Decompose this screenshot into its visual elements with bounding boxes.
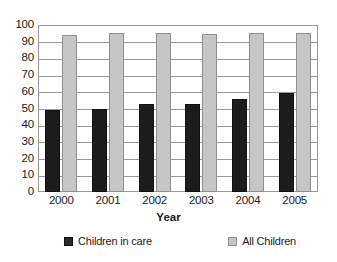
y-tick-label: 50: [0, 103, 34, 114]
gridline: [39, 76, 317, 77]
chart-legend: Children in careAll Children: [38, 232, 318, 250]
x-tick-label-2002: 2002: [131, 194, 178, 207]
x-axis: 200020012002200320042005: [38, 194, 318, 210]
y-tick-label: 90: [0, 36, 34, 47]
y-tick-label: 100: [0, 19, 34, 30]
bar-chart: 0102030405060708090100 20002001200220032…: [0, 0, 337, 262]
x-tick-label-2003: 2003: [178, 194, 225, 207]
y-tick-label: 0: [0, 186, 34, 197]
legend-label: Children in care: [78, 235, 152, 247]
y-tick-label: 60: [0, 86, 34, 97]
dark-square-icon: [64, 237, 73, 246]
legend-entry-all-children[interactable]: All Children: [228, 235, 296, 247]
gridline: [39, 59, 317, 60]
x-axis-title: Year: [0, 211, 337, 223]
gridline: [39, 126, 317, 127]
x-tick-label-2005: 2005: [271, 194, 318, 207]
y-axis: 0102030405060708090100: [0, 25, 34, 192]
y-tick-label: 10: [0, 169, 34, 180]
x-tick-label-2001: 2001: [85, 194, 132, 207]
y-tick-label: 20: [0, 153, 34, 164]
plot-area: [38, 25, 318, 192]
y-tick-label: 40: [0, 119, 34, 130]
gridline: [39, 42, 317, 43]
gridline: [39, 92, 317, 93]
gridline: [39, 176, 317, 177]
y-tick-label: 70: [0, 69, 34, 80]
light-square-icon: [228, 237, 237, 246]
gridline: [39, 159, 317, 160]
x-tick-label-2000: 2000: [38, 194, 85, 207]
gridline: [39, 109, 317, 110]
x-tick-label-2004: 2004: [225, 194, 272, 207]
gridline: [39, 142, 317, 143]
legend-label: All Children: [242, 235, 296, 247]
y-tick-label: 80: [0, 52, 34, 63]
legend-entry-children-in-care[interactable]: Children in care: [64, 235, 152, 247]
y-tick-label: 30: [0, 136, 34, 147]
